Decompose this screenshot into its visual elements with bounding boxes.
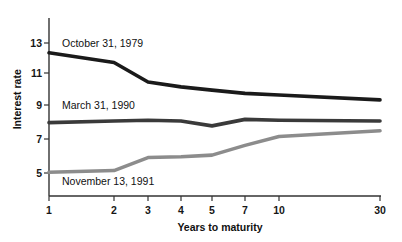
- y-tick-label: 11: [20, 68, 42, 79]
- y-tick-label: 9: [20, 100, 42, 111]
- x-tick-label: 10: [267, 205, 291, 216]
- y-axis-title: Interest rate: [12, 54, 23, 144]
- x-tick-label: 5: [200, 205, 224, 216]
- yield-curve-chart: 5791113 1234571030 Interest rate Years t…: [0, 0, 402, 242]
- y-tick-label: 13: [20, 38, 42, 49]
- x-tick-label: 7: [233, 205, 257, 216]
- series-line-2: [49, 131, 380, 172]
- series-annotation-1991: November 13, 1991: [62, 176, 154, 187]
- series-line-0: [49, 53, 380, 100]
- x-axis-title: Years to maturity: [150, 222, 290, 233]
- x-tick-label: 2: [102, 205, 126, 216]
- x-tick-label: 1: [37, 205, 61, 216]
- x-tick-label: 30: [368, 205, 392, 216]
- data-series-lines: [49, 53, 380, 172]
- series-line-1: [49, 119, 380, 126]
- y-tick-label: 7: [20, 134, 42, 145]
- x-tick-label: 3: [136, 205, 160, 216]
- y-tick-label: 5: [20, 168, 42, 179]
- series-annotation-1979: October 31, 1979: [62, 38, 143, 49]
- series-annotation-1990: March 31, 1990: [62, 100, 135, 111]
- x-tick-label: 4: [169, 205, 193, 216]
